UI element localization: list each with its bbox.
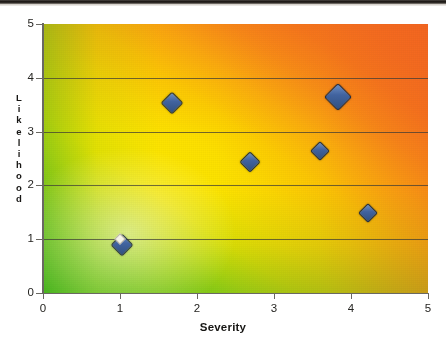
gridline-y-2	[43, 185, 428, 186]
y-tick-label-1: 1	[20, 232, 34, 244]
plot-area	[43, 24, 428, 293]
x-tick-4	[351, 293, 352, 299]
y-axis-title-letter-0: L	[12, 92, 26, 103]
y-tick-1	[36, 239, 43, 240]
x-tick-label-5: 5	[418, 302, 438, 314]
x-tick-label-3: 3	[264, 302, 284, 314]
y-tick-label-4: 4	[20, 71, 34, 83]
x-tick-5	[428, 293, 429, 299]
gridline-y-3	[43, 132, 428, 133]
y-axis-title-letter-8: o	[12, 182, 26, 193]
scan-texture	[43, 24, 428, 293]
y-axis-title-letter-5: i	[12, 148, 26, 159]
x-axis-line	[42, 293, 429, 295]
y-axis-title-letter-7: o	[12, 170, 26, 181]
x-tick-label-4: 4	[341, 302, 361, 314]
y-axis-title-letter-6: h	[12, 159, 26, 170]
gridline-y-4	[43, 78, 428, 79]
x-tick-2	[197, 293, 198, 299]
y-tick-label-5: 5	[20, 17, 34, 29]
x-tick-0	[43, 293, 44, 299]
risk-matrix-chart: 012345 012345 Likelihood Severity	[0, 0, 446, 345]
x-tick-1	[120, 293, 121, 299]
x-tick-3	[274, 293, 275, 299]
y-tick-label-0: 0	[20, 286, 34, 298]
y-axis-title-letter-3: e	[12, 126, 26, 137]
y-tick-0	[36, 293, 43, 294]
x-tick-label-2: 2	[187, 302, 207, 314]
gridline-y-1	[43, 239, 428, 240]
y-tick-2	[36, 185, 43, 186]
y-tick-5	[36, 24, 43, 25]
y-axis-title: Likelihood	[12, 92, 26, 204]
y-axis-title-letter-9: d	[12, 193, 26, 204]
y-axis-title-letter-2: k	[12, 114, 26, 125]
y-tick-3	[36, 132, 43, 133]
y-axis-title-letter-4: l	[12, 137, 26, 148]
y-tick-4	[36, 78, 43, 79]
x-tick-label-1: 1	[110, 302, 130, 314]
y-axis-title-letter-1: i	[12, 103, 26, 114]
x-tick-label-0: 0	[33, 302, 53, 314]
x-axis-title: Severity	[0, 321, 446, 333]
y-axis-line	[42, 23, 44, 294]
